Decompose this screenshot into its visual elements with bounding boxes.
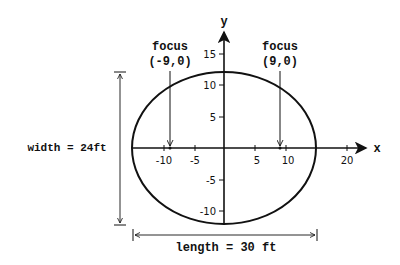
focus-left-title: focus <box>152 40 188 54</box>
x-tick-label: 10 <box>282 155 295 166</box>
y-axis <box>219 32 224 224</box>
y-axis-label: y <box>220 15 227 29</box>
ellipse-diagram: -10 -5 5 10 20 x 15 10 5 -5 -10 y focus … <box>0 0 400 265</box>
focus-right-title: focus <box>262 40 298 54</box>
focus-left-coord: (-9,0) <box>148 55 191 69</box>
y-tick-label: -10 <box>200 206 216 217</box>
x-tick-label: 20 <box>341 155 354 166</box>
width-label: width = 24ft <box>27 142 106 154</box>
focus-right-coord: (9,0) <box>262 55 298 69</box>
x-tick-label: -10 <box>156 155 172 166</box>
x-axis-label: x <box>373 142 380 156</box>
width-dimension <box>114 72 126 225</box>
y-tick-label: 10 <box>203 80 216 91</box>
length-dimension <box>133 229 317 241</box>
focus-left-point <box>169 147 172 150</box>
y-tick-label: 5 <box>210 112 216 123</box>
y-tick-label: 15 <box>203 49 216 60</box>
x-tick-label: -5 <box>190 155 200 166</box>
focus-right-point <box>279 147 282 150</box>
focus-right: focus (9,0) <box>262 40 298 150</box>
focus-left: focus (-9,0) <box>148 40 191 150</box>
x-axis <box>133 145 366 151</box>
length-label: length = 30 ft <box>176 241 277 255</box>
y-tick-label: -5 <box>206 175 216 186</box>
x-tick-label: 5 <box>254 155 260 166</box>
